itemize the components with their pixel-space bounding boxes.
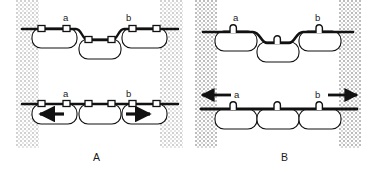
site-label-a-upper: a xyxy=(233,13,238,23)
junction-plaque xyxy=(63,101,70,107)
upper-row-group xyxy=(203,25,353,62)
panel-a-drawing xyxy=(0,0,189,172)
panel-b-drawing xyxy=(189,0,378,172)
junction-loop xyxy=(274,36,280,44)
junction-plaque xyxy=(63,26,70,32)
junction-plaque xyxy=(85,37,92,43)
junction-plaque xyxy=(129,101,136,107)
panel-label-a: A xyxy=(93,152,100,163)
junction-plaque xyxy=(85,101,92,107)
panel-a: a b a b A xyxy=(0,0,189,172)
site-label-b-upper: b xyxy=(126,13,131,23)
junction-plaque xyxy=(153,26,160,32)
cell-middle xyxy=(257,109,299,129)
junction-loop xyxy=(230,25,236,33)
site-label-a-lower: a xyxy=(234,90,239,100)
site-label-b-upper: b xyxy=(315,13,320,23)
junction-plaque xyxy=(38,101,45,107)
site-label-a-upper: a xyxy=(63,13,68,23)
upper-row-group xyxy=(22,26,178,60)
junction-plaque xyxy=(153,101,160,107)
junction-plaque xyxy=(129,26,136,32)
cell-left xyxy=(215,31,257,51)
site-label-b-lower: b xyxy=(126,89,131,99)
panel-label-b: B xyxy=(281,152,288,163)
cell-left xyxy=(215,109,257,129)
junction-loop xyxy=(274,102,280,110)
lower-row-group xyxy=(22,101,178,125)
junction-plaque xyxy=(38,26,45,32)
lower-row-group xyxy=(201,95,357,129)
site-label-b-lower: b xyxy=(315,90,320,100)
panel-b: a b a b B xyxy=(189,0,378,172)
junction-loop xyxy=(316,102,322,110)
cell-right xyxy=(299,31,341,51)
site-label-a-lower: a xyxy=(63,89,68,99)
junction-plaque xyxy=(108,37,115,43)
figure-canvas: a b a b A xyxy=(0,0,378,172)
junction-loop xyxy=(316,25,322,33)
cell-middle xyxy=(257,42,299,62)
junction-plaque xyxy=(108,101,115,107)
junction-loop xyxy=(230,102,236,110)
cell-right xyxy=(299,109,341,129)
